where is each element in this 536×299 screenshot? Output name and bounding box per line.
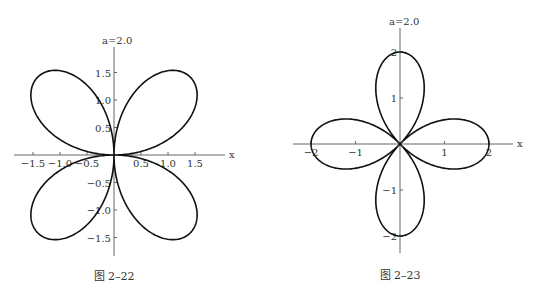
tick-label: 1 <box>441 147 447 158</box>
tick-label: 0.5 <box>95 123 111 134</box>
tick-label: −1 <box>382 185 397 196</box>
tick-label: −1 <box>348 147 363 158</box>
x-axis-label: x <box>517 138 523 149</box>
tick-label: 1.5 <box>95 68 111 79</box>
chart-title: a=2.0 <box>389 16 419 27</box>
tick-label: −0.5 <box>87 178 111 189</box>
tick-label: 1 <box>391 93 397 104</box>
tick-label: 1.5 <box>187 158 203 169</box>
chart-title: a=2.0 <box>102 35 132 46</box>
tick-label: −0.5 <box>75 158 99 169</box>
x-axis-label: x <box>229 149 235 160</box>
chart-right: x a=2.0 −2−112 21−1−2 图 2–23 <box>293 16 523 282</box>
tick-label: −1.0 <box>48 158 72 169</box>
tick-label: −1.5 <box>21 158 45 169</box>
figure-caption: 图 2–23 <box>380 269 421 282</box>
chart-left: x a=2.0 −1.5−1.0−0.50.51.01.5 1.51.00.5−… <box>14 35 235 283</box>
figure-caption: 图 2–22 <box>94 270 135 283</box>
tick-label: −1.5 <box>87 233 111 244</box>
figure-canvas: x a=2.0 −1.5−1.0−0.50.51.01.5 1.51.00.5−… <box>0 0 536 299</box>
